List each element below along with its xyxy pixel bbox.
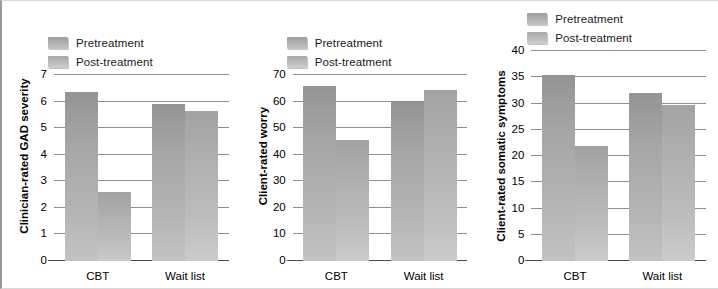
x-tick-label: CBT xyxy=(542,270,608,282)
bar-pre xyxy=(391,102,424,261)
y-tick-label: 1 xyxy=(41,227,47,239)
bar-post xyxy=(662,105,695,261)
bar-post xyxy=(185,111,218,261)
legend-item-pre[interactable]: Pretreatment xyxy=(287,33,392,52)
y-tick-label: 0 xyxy=(518,254,524,266)
x-axis-labels: CBTWait list xyxy=(54,270,229,282)
bar-container xyxy=(293,75,468,261)
bar-post xyxy=(98,192,131,261)
x-tick-label: CBT xyxy=(65,270,131,282)
legend-swatch-post-icon xyxy=(287,56,307,68)
bar-group-cbt xyxy=(542,51,608,261)
plot-area: 01234567 xyxy=(54,75,229,261)
y-tick-label: 20 xyxy=(273,201,286,213)
x-tick-label: Wait list xyxy=(629,270,695,282)
y-tick-label: 40 xyxy=(512,44,525,56)
y-tick-label: 20 xyxy=(512,149,525,161)
legend-item-post[interactable]: Post-treatment xyxy=(527,28,632,47)
legend-label-post: Post-treatment xyxy=(315,56,392,68)
legend-label-pre: Pretreatment xyxy=(76,37,144,49)
y-tick-label: 4 xyxy=(41,148,47,160)
x-tick-label: Wait list xyxy=(152,270,218,282)
y-tick-label: 35 xyxy=(512,70,525,82)
legend-label-pre: Pretreatment xyxy=(315,37,383,49)
figure-panel-group: PretreatmentPost-treatmentClinician-rate… xyxy=(0,0,718,289)
legend-swatch-post-icon xyxy=(48,56,68,68)
y-axis-title: Client-rated somatic symptoms xyxy=(495,61,509,251)
y-tick-label: 0 xyxy=(41,254,47,266)
y-axis-title: Client-rated worry xyxy=(257,61,271,251)
y-tick-label: 6 xyxy=(41,95,47,107)
bar-post xyxy=(336,140,369,261)
legend-swatch-pre-icon xyxy=(527,13,547,25)
legend-label-pre: Pretreatment xyxy=(555,13,623,25)
bar-post xyxy=(575,146,608,262)
legend-item-post[interactable]: Post-treatment xyxy=(48,52,153,71)
legend-item-post[interactable]: Post-treatment xyxy=(287,52,392,71)
y-tick-label: 10 xyxy=(273,227,286,239)
y-tick-label: 60 xyxy=(273,95,286,107)
y-axis-title: Clinician-rated GAD severity xyxy=(18,61,32,251)
plot-area: 0510152025303540 xyxy=(531,51,706,261)
bar-pre xyxy=(152,104,185,261)
x-axis-labels: CBTWait list xyxy=(293,270,468,282)
y-tick-label: 3 xyxy=(41,174,47,186)
bar-group-wait-list xyxy=(391,75,457,261)
bar-pre xyxy=(542,75,575,261)
legend-label-post: Post-treatment xyxy=(555,32,632,44)
legend-swatch-post-icon xyxy=(527,32,547,44)
bar-container xyxy=(54,75,229,261)
y-tick-label: 7 xyxy=(41,68,47,80)
legend-swatch-pre-icon xyxy=(48,37,68,49)
x-tick-label: CBT xyxy=(303,270,369,282)
y-tick-label: 25 xyxy=(512,123,525,135)
chart-panel-1: PretreatmentPost-treatmentClinician-rate… xyxy=(2,1,241,289)
chart-legend: PretreatmentPost-treatment xyxy=(287,33,392,71)
bar-post xyxy=(424,90,457,261)
legend-item-pre[interactable]: Pretreatment xyxy=(527,9,632,28)
chart-panel-3: PretreatmentPost-treatmentClient-rated s… xyxy=(479,1,718,289)
y-tick-label: 15 xyxy=(512,175,525,187)
chart-legend: PretreatmentPost-treatment xyxy=(527,9,632,47)
legend-item-pre[interactable]: Pretreatment xyxy=(48,33,153,52)
y-tick-label: 5 xyxy=(518,228,524,240)
legend-label-post: Post-treatment xyxy=(76,56,153,68)
y-tick-label: 40 xyxy=(273,148,286,160)
bar-group-cbt xyxy=(303,75,369,261)
y-tick-label: 30 xyxy=(273,174,286,186)
plot-area: 010203040506070 xyxy=(293,75,468,261)
bar-pre xyxy=(629,93,662,261)
bar-pre xyxy=(65,92,98,261)
x-axis-labels: CBTWait list xyxy=(531,270,706,282)
y-tick-label: 5 xyxy=(41,121,47,133)
y-tick-label: 10 xyxy=(512,202,525,214)
chart-legend: PretreatmentPost-treatment xyxy=(48,33,153,71)
legend-swatch-pre-icon xyxy=(287,37,307,49)
y-tick-label: 30 xyxy=(512,97,525,109)
x-tick-label: Wait list xyxy=(391,270,457,282)
bar-group-wait-list xyxy=(152,75,218,261)
bar-group-wait-list xyxy=(629,51,695,261)
y-tick-label: 0 xyxy=(279,254,285,266)
y-tick-label: 2 xyxy=(41,201,47,213)
y-tick-label: 50 xyxy=(273,121,286,133)
y-tick-label: 70 xyxy=(273,68,286,80)
bar-group-cbt xyxy=(65,75,131,261)
bar-container xyxy=(531,51,706,261)
bar-pre xyxy=(303,86,336,261)
chart-panel-2: PretreatmentPost-treatmentClient-rated w… xyxy=(241,1,480,289)
